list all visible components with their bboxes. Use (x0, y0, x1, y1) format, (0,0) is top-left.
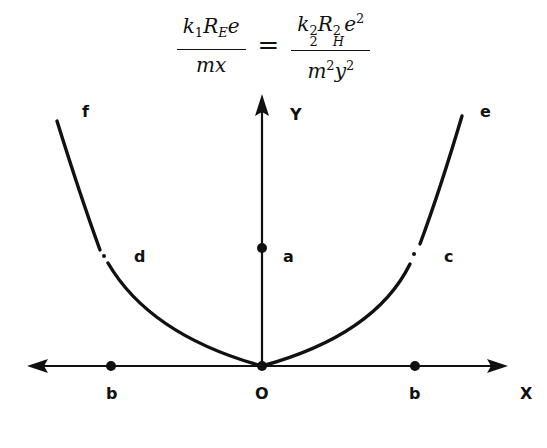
curve-left-upper (57, 121, 100, 250)
curve-right-lower (262, 264, 410, 366)
label-a: a (283, 247, 294, 266)
origin-point (257, 361, 267, 371)
label-f: f (82, 102, 90, 121)
point-b-left (106, 361, 116, 371)
label-origin: O (255, 384, 269, 403)
label-y-axis: Y (289, 105, 302, 124)
label-b-left: b (106, 384, 117, 403)
point-a (257, 243, 267, 253)
label-b-right: b (409, 384, 420, 403)
point-d-marker (102, 254, 106, 258)
point-c-marker (412, 252, 416, 256)
parabola-diagram: f e Y d a c b O b X (0, 0, 547, 448)
label-d: d (134, 247, 145, 266)
point-b-right (410, 361, 420, 371)
curve-right-upper (420, 116, 462, 244)
label-e: e (480, 102, 491, 121)
label-x-axis: X (520, 384, 533, 403)
curve-left-lower (108, 263, 262, 366)
label-c: c (444, 247, 453, 266)
